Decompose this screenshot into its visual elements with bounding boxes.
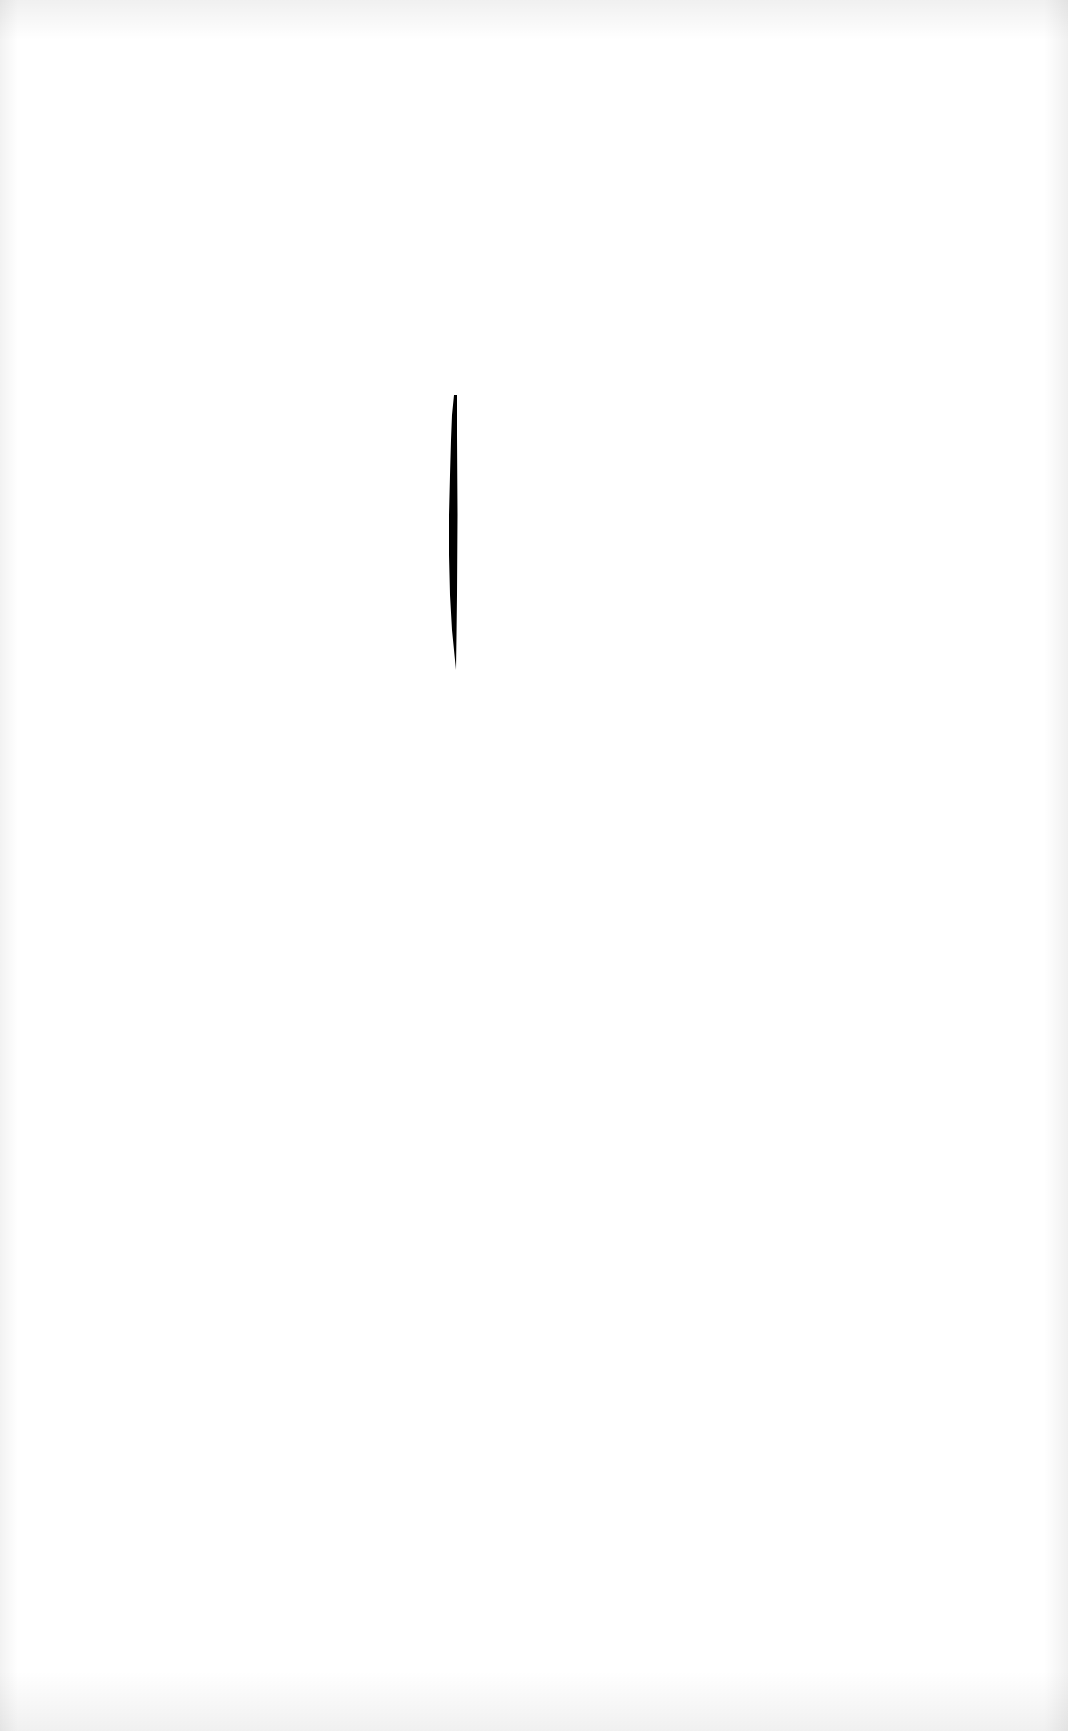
blank-page [0,0,1068,1731]
crescent-stroke-shape [440,395,460,670]
brush-stroke-mark [440,395,460,670]
